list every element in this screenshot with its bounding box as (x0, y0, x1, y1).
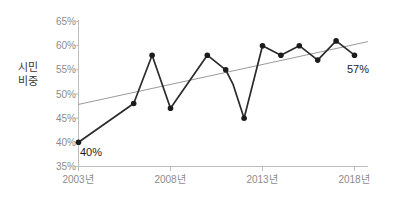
chart-container: 시민 비중 65% 60% 55% 50% 45% 40% 35% 2003년 … (0, 0, 393, 201)
annotation-start-value: 40% (80, 147, 102, 158)
data-series-line (79, 41, 355, 142)
trendline (78, 42, 368, 105)
x-axis-ticks (79, 167, 355, 172)
chart-plot-area (0, 0, 393, 201)
data-point-markers (76, 38, 358, 145)
annotation-end-value: 57% (347, 64, 369, 75)
